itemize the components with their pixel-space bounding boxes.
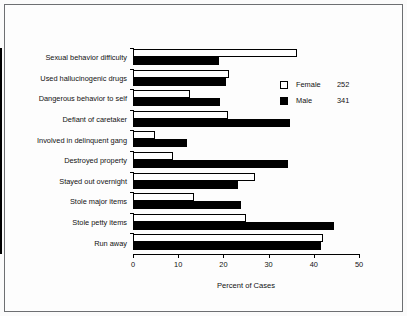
x-axis-line	[133, 254, 359, 255]
x-axis-tick	[359, 254, 360, 258]
x-axis-tick-label: 50	[347, 260, 371, 269]
bar-male	[133, 98, 220, 106]
category-label: Sexual behavior difficulty	[7, 53, 127, 62]
x-axis-tick-label: 10	[166, 260, 190, 269]
legend-value-female: 252	[337, 80, 349, 89]
bar-female	[133, 193, 194, 201]
chart-row: Sexual behavior difficulty	[0, 48, 407, 69]
x-axis-tick-label: 40	[302, 260, 326, 269]
category-label: Stole major items	[7, 197, 127, 206]
bar-female	[133, 234, 323, 242]
bar-female	[133, 173, 255, 181]
chart-row: Destroyed property	[0, 151, 407, 172]
bar-female	[133, 90, 190, 98]
bar-male	[133, 160, 288, 168]
bar-female	[133, 111, 228, 119]
category-label: Dangerous behavior to self	[7, 94, 127, 103]
category-label: Destroyed property	[7, 156, 127, 165]
chart-row: Stole major items	[0, 192, 407, 213]
x-axis-tick-label: 20	[211, 260, 235, 269]
legend-label-male: Male	[296, 96, 312, 105]
bar-male	[133, 139, 187, 147]
chart-figure: Sexual behavior difficultyUsed hallucino…	[0, 0, 407, 316]
chart-row: Defiant of caretaker	[0, 110, 407, 131]
category-label: Defiant of caretaker	[7, 115, 127, 124]
bar-male	[133, 222, 334, 230]
bar-male	[133, 57, 219, 65]
bar-female	[133, 70, 229, 78]
chart-row: Stayed out overnight	[0, 172, 407, 193]
x-axis-tick	[314, 254, 315, 258]
x-axis-tick	[133, 254, 134, 258]
bar-male	[133, 119, 290, 127]
legend-label-female: Female	[296, 80, 321, 89]
bar-female	[133, 131, 155, 139]
x-axis-title: Percent of Cases	[133, 281, 359, 290]
x-axis-tick-label: 0	[121, 260, 145, 269]
category-label: Involved in delinquent gang	[7, 136, 127, 145]
x-axis-tick	[178, 254, 179, 258]
filled-square-icon	[280, 97, 288, 105]
bar-female	[133, 49, 297, 57]
category-label: Stole petty items	[7, 218, 127, 227]
bar-female	[133, 152, 173, 160]
bar-male	[133, 181, 238, 189]
chart-row: Stole petty items	[0, 213, 407, 234]
chart-row: Involved in delinquent gang	[0, 130, 407, 151]
x-axis-tick	[223, 254, 224, 258]
legend-value-male: 341	[337, 96, 349, 105]
x-axis-tick-label: 30	[257, 260, 281, 269]
bar-female	[133, 214, 246, 222]
x-axis-tick	[269, 254, 270, 258]
category-label: Used hallucinogenic drugs	[7, 74, 127, 83]
bar-male	[133, 78, 226, 86]
category-label: Stayed out overnight	[7, 177, 127, 186]
bar-male	[133, 201, 241, 209]
category-label: Run away	[7, 239, 127, 248]
bar-male	[133, 242, 321, 250]
chart-row: Run away	[0, 233, 407, 254]
open-square-icon	[280, 81, 288, 89]
